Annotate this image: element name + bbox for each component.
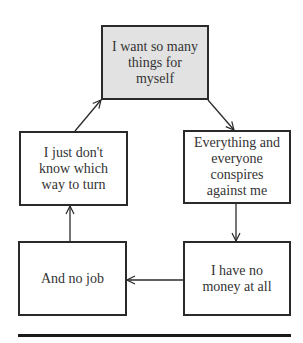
node-want-label: I want so many things for myself: [110, 39, 200, 87]
node-money: I have no money at all: [183, 241, 291, 316]
node-money-label: I have no money at all: [202, 263, 272, 295]
node-job: And no job: [18, 241, 127, 316]
node-conspires-label: Everything and everyone conspires agains…: [189, 135, 285, 199]
node-turn-label: I just don't know which way to turn: [39, 145, 109, 193]
node-want: I want so many things for myself: [101, 25, 209, 100]
arrow-turn-to-want: [75, 100, 101, 131]
node-turn: I just don't know which way to turn: [19, 131, 128, 206]
arrow-want-to-conspires: [208, 100, 234, 130]
bottom-rule: [18, 334, 291, 337]
node-job-label: And no job: [41, 271, 104, 287]
node-conspires: Everything and everyone conspires agains…: [183, 130, 291, 204]
